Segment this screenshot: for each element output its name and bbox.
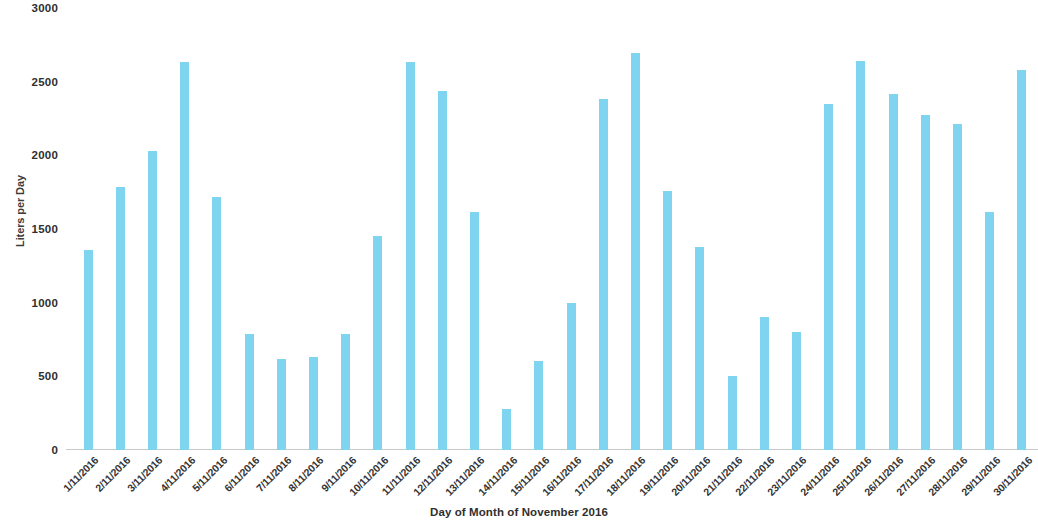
bar[interactable] — [1017, 70, 1026, 450]
y-axis-tick-label: 2000 — [0, 149, 58, 161]
bar[interactable] — [792, 332, 801, 450]
x-axis-tick-labels: 1/11/20162/11/20163/11/20164/11/20165/11… — [66, 450, 1038, 508]
bar[interactable] — [889, 94, 898, 450]
bar[interactable] — [148, 151, 157, 450]
y-axis-tick-label: 500 — [0, 370, 58, 382]
bar[interactable] — [245, 334, 254, 450]
bar[interactable] — [341, 334, 350, 450]
x-axis-title: Day of Month of November 2016 — [0, 506, 1038, 518]
bar[interactable] — [277, 359, 286, 450]
y-axis-tick-label: 1500 — [0, 223, 58, 235]
bar[interactable] — [760, 317, 769, 450]
bar[interactable] — [84, 250, 93, 450]
bar[interactable] — [695, 247, 704, 450]
bar[interactable] — [567, 303, 576, 450]
plot-area — [66, 8, 1038, 450]
y-axis-tick-labels: 050010001500200025003000 — [0, 0, 66, 525]
bar[interactable] — [438, 91, 447, 450]
bar[interactable] — [953, 124, 962, 450]
y-axis-tick-label: 2500 — [0, 76, 58, 88]
bar[interactable] — [534, 361, 543, 450]
y-axis-tick-label: 0 — [0, 444, 58, 456]
bar[interactable] — [470, 212, 479, 450]
bar[interactable] — [856, 61, 865, 450]
bar[interactable] — [116, 187, 125, 450]
bar-chart: Liters per Day 050010001500200025003000 … — [0, 0, 1038, 525]
bar[interactable] — [309, 357, 318, 450]
bar[interactable] — [728, 376, 737, 450]
bar[interactable] — [406, 62, 415, 450]
y-axis-tick-label: 1000 — [0, 297, 58, 309]
bar[interactable] — [212, 197, 221, 450]
bar[interactable] — [631, 53, 640, 450]
bar[interactable] — [824, 104, 833, 450]
bar[interactable] — [663, 191, 672, 450]
y-axis-tick-label: 3000 — [0, 2, 58, 14]
bar[interactable] — [180, 62, 189, 450]
bar[interactable] — [373, 236, 382, 450]
bar[interactable] — [921, 115, 930, 450]
bar[interactable] — [502, 409, 511, 450]
bar[interactable] — [599, 99, 608, 450]
bar[interactable] — [985, 212, 994, 450]
